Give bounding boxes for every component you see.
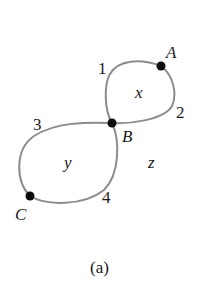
vertex-label-c: C — [15, 205, 27, 224]
vertex-c — [26, 192, 35, 201]
edge-label-4: 4 — [102, 188, 111, 207]
vertex-label-a: A — [165, 43, 177, 62]
face-label-y: y — [62, 153, 72, 172]
vertex-label-b: B — [122, 127, 133, 146]
face-label-z: z — [147, 153, 155, 172]
edge-label-2: 2 — [176, 103, 185, 122]
face-label-x: x — [134, 83, 143, 102]
edge-label-3: 3 — [33, 115, 42, 134]
vertex-b — [108, 119, 117, 128]
vertex-a — [157, 62, 166, 71]
edge-1 — [106, 61, 161, 123]
edge-2 — [112, 66, 174, 123]
graph-diagram: A B C 1 2 3 4 x y z (a) — [0, 0, 207, 291]
figure-caption: (a) — [90, 258, 109, 277]
edge-label-1: 1 — [98, 59, 107, 78]
